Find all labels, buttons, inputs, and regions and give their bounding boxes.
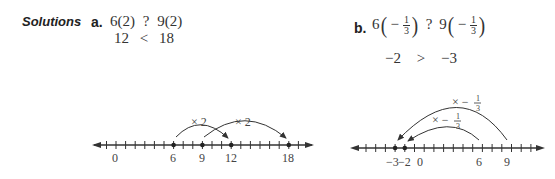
number-lines-figure: × 2 × 2 0 6 9 12 18 × − 1 (0, 0, 555, 179)
times-2-label-1: × 2 (191, 115, 207, 129)
tick-label-6: 6 (170, 151, 176, 165)
point-neg2 (403, 146, 408, 151)
tick-label-6: 6 (476, 155, 482, 169)
point-9 (200, 143, 205, 148)
fraction-denominator: 3 (456, 122, 460, 131)
number-line-a: × 2 × 2 0 6 9 12 18 (92, 115, 314, 165)
arrow-right-icon (536, 145, 545, 151)
times-neg-third-label-inner: × − (432, 113, 449, 127)
tick-label-neg3: −3 (386, 155, 399, 169)
times-2-label-2: × 2 (235, 115, 251, 129)
fraction-numerator: 1 (456, 112, 460, 121)
arrow-right-icon (305, 142, 314, 148)
point-neg3 (393, 146, 398, 151)
point-6 (171, 143, 176, 148)
number-line-b: × − 1 3 × − 1 3 −3 −2 0 6 9 (350, 94, 545, 169)
tick-label-0: 0 (112, 151, 118, 165)
tick-label-9: 9 (504, 155, 510, 169)
arrow-9-to-neg3 (398, 108, 507, 141)
fraction-denominator: 3 (476, 104, 480, 113)
fraction-numerator: 1 (476, 94, 480, 103)
times-neg-third-label-outer: × − (452, 95, 469, 109)
tick-label-9: 9 (199, 151, 205, 165)
arrow-left-icon (350, 145, 359, 151)
tick-label-0: 0 (417, 155, 423, 169)
arrow-6-to-neg2 (408, 127, 479, 141)
tick-label-12: 12 (225, 151, 237, 165)
point-12 (229, 143, 234, 148)
tick-label-18: 18 (282, 151, 294, 165)
tick-label-neg2: −2 (398, 155, 411, 169)
arrow-left-icon (92, 142, 101, 148)
point-18 (287, 143, 292, 148)
